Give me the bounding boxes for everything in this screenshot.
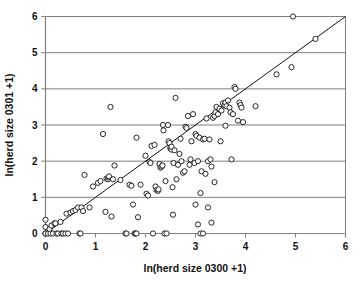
x-tick-label-6: 6 — [343, 241, 349, 252]
data-point — [118, 177, 123, 182]
x-tick-label-0: 0 — [43, 241, 49, 252]
x-tick-label-5: 5 — [293, 241, 299, 252]
data-point — [80, 208, 85, 213]
data-point — [233, 86, 238, 91]
data-point — [150, 231, 155, 236]
data-point — [98, 178, 103, 183]
data-point — [235, 118, 240, 123]
data-point — [90, 184, 95, 189]
data-point — [148, 160, 153, 165]
data-point — [165, 122, 170, 127]
data-point — [177, 151, 182, 156]
data-point — [174, 177, 179, 182]
data-point — [143, 153, 148, 158]
data-point — [172, 148, 177, 153]
data-point — [160, 163, 165, 168]
data-point — [187, 162, 192, 167]
data-point — [209, 164, 214, 169]
y-tick-label-6: 6 — [32, 11, 38, 22]
data-point — [179, 159, 184, 164]
data-point — [109, 214, 114, 219]
data-point — [87, 205, 92, 210]
data-point — [313, 36, 318, 41]
data-point — [134, 231, 139, 236]
x-axis-label: ln(herd size 0300 +1) — [143, 262, 246, 274]
x-tick-label-2: 2 — [143, 241, 149, 252]
data-point — [170, 212, 175, 217]
data-point — [134, 135, 139, 140]
data-point — [289, 65, 294, 70]
data-point — [160, 122, 165, 127]
data-point — [124, 231, 129, 236]
data-point — [135, 215, 140, 220]
data-point — [138, 182, 143, 187]
data-point — [100, 131, 105, 136]
data-point — [185, 113, 190, 118]
data-point — [219, 108, 224, 113]
data-point — [240, 120, 245, 125]
data-point — [218, 139, 223, 144]
data-point — [204, 116, 209, 121]
data-point — [161, 128, 166, 133]
data-point — [108, 104, 113, 109]
data-point — [78, 231, 83, 236]
y-axis-label: ln(herd size 0301 +1) — [3, 73, 15, 176]
data-point — [200, 231, 205, 236]
data-point — [205, 205, 210, 210]
data-point — [207, 137, 212, 142]
y-tick-label-3: 3 — [32, 120, 38, 131]
data-point — [230, 112, 235, 117]
data-point — [58, 219, 63, 224]
data-point — [178, 136, 183, 141]
data-point — [225, 98, 230, 103]
x-tick-label-3: 3 — [193, 241, 199, 252]
data-point — [190, 112, 195, 117]
data-point — [253, 104, 258, 109]
data-point — [290, 14, 295, 19]
chart-canvas: 0123456 0123456 ln(herd size 0300 +1) ln… — [0, 0, 359, 282]
data-point — [208, 157, 213, 162]
data-point — [129, 183, 134, 188]
data-point — [182, 169, 187, 174]
data-point — [193, 202, 198, 207]
x-tick-label-1: 1 — [93, 241, 99, 252]
data-point — [202, 136, 207, 141]
data-point — [82, 172, 87, 177]
data-point — [170, 185, 175, 190]
y-tick-label-1: 1 — [32, 192, 38, 203]
y-tick-label-2: 2 — [32, 156, 38, 167]
data-point — [173, 95, 178, 100]
data-point — [164, 231, 169, 236]
y-tick-label-0: 0 — [32, 228, 38, 239]
data-point — [152, 142, 157, 147]
data-point — [274, 72, 279, 77]
data-point — [212, 180, 217, 185]
y-tick-label-4: 4 — [32, 83, 38, 94]
data-point — [195, 222, 200, 227]
data-point — [195, 159, 200, 164]
data-point — [163, 178, 168, 183]
data-point — [203, 171, 208, 176]
data-point — [209, 220, 214, 225]
data-point — [130, 202, 135, 207]
y-tick-label-5: 5 — [32, 47, 38, 58]
data-point — [223, 123, 228, 128]
data-point — [110, 177, 115, 182]
data-point — [189, 139, 194, 144]
data-point — [198, 190, 203, 195]
data-point — [239, 105, 244, 110]
data-point — [229, 157, 234, 162]
data-point — [43, 217, 48, 222]
x-tick-label-4: 4 — [243, 241, 249, 252]
data-point — [145, 193, 150, 198]
data-point — [53, 221, 58, 226]
scatter-plot-figure: 0123456 0123456 ln(herd size 0300 +1) ln… — [0, 0, 359, 282]
data-point — [103, 209, 108, 214]
data-point — [156, 187, 161, 192]
data-point — [184, 125, 189, 130]
data-point — [112, 163, 117, 168]
data-point — [65, 231, 70, 236]
